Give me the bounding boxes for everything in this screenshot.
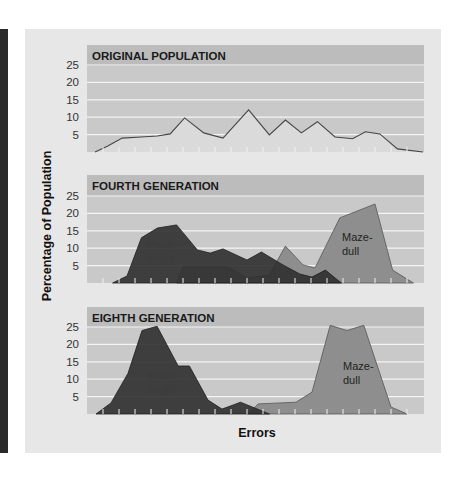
y-tick-label: 5: [73, 260, 79, 272]
maze-dull-label-line2: dull: [342, 245, 359, 257]
y-tick-label: 5: [73, 129, 79, 141]
chart-eighth-generation: EIGHTH GENERATION 510152025 Maze- bright…: [66, 307, 424, 414]
y-tick-label: 25: [66, 321, 79, 333]
chart-title: ORIGINAL POPULATION: [92, 50, 226, 62]
y-tick-label: 20: [66, 207, 79, 219]
y-tick-label: 10: [66, 373, 79, 385]
maze-bright-label-line1: Maze-: [148, 369, 179, 381]
y-tick-labels: 510152025: [66, 190, 79, 272]
chart-original-population: ORIGINAL POPULATION 510152025: [66, 45, 424, 152]
maze-bright-label-line1: Maze-: [147, 238, 178, 250]
y-tick-label: 15: [66, 94, 79, 106]
y-tick-label: 20: [66, 76, 79, 88]
maze-bright-label-line2: bright: [148, 383, 176, 395]
maze-dull-label-line1: Maze-: [343, 360, 374, 372]
x-axis-label: Errors: [238, 426, 276, 440]
chart-title: FOURTH GENERATION: [92, 180, 219, 192]
y-tick-label: 10: [66, 111, 79, 123]
y-axis-label: Percentage of Population: [40, 151, 54, 302]
y-tick-labels: 510152025: [66, 59, 79, 141]
y-tick-label: 15: [66, 356, 79, 368]
y-tick-label: 25: [66, 190, 79, 202]
figure: Percentage of Population ORIGINAL POPULA…: [0, 0, 465, 477]
y-tick-label: 20: [66, 338, 79, 350]
y-tick-labels: 510152025: [66, 321, 79, 403]
y-tick-label: 5: [73, 391, 79, 403]
chart-fourth-generation: FOURTH GENERATION 510152025 Maze- bright…: [66, 175, 424, 283]
y-tick-label: 15: [66, 225, 79, 237]
y-tick-label: 10: [66, 242, 79, 254]
chart-title: EIGHTH GENERATION: [92, 312, 214, 324]
maze-dull-label-line2: dull: [343, 374, 360, 386]
y-tick-label: 25: [66, 59, 79, 71]
maze-bright-label-line2: bright: [147, 252, 175, 264]
maze-dull-label-line1: Maze-: [342, 231, 373, 243]
